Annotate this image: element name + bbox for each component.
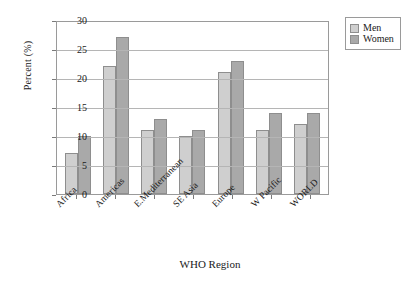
y-tick-label: 5 <box>59 161 87 171</box>
legend-label-women: Women <box>363 34 394 44</box>
legend-label-men: Men <box>363 23 381 33</box>
gridline <box>57 50 328 51</box>
legend-item-women: Women <box>350 34 394 44</box>
y-tick-mark <box>52 21 56 22</box>
x-tick-mark <box>271 195 272 199</box>
x-tick-mark <box>193 195 194 199</box>
legend-swatch-men <box>350 24 359 33</box>
bar-women-europe <box>231 61 244 194</box>
y-tick-label: 25 <box>59 45 87 55</box>
x-tick-mark <box>310 195 311 199</box>
bar-men-americas <box>103 66 116 194</box>
y-axis-title: Percent (%) <box>22 11 33 121</box>
y-tick-mark <box>52 195 56 196</box>
y-tick-label: 15 <box>59 103 87 113</box>
y-tick-mark <box>52 137 56 138</box>
gridline <box>57 137 328 138</box>
y-tick-mark <box>52 79 56 80</box>
legend: Men Women <box>345 17 401 50</box>
bar-men-europe <box>218 72 231 194</box>
y-tick-label: 30 <box>59 16 87 26</box>
legend-item-men: Men <box>350 23 394 33</box>
x-tick-mark <box>154 195 155 199</box>
legend-swatch-women <box>350 35 359 44</box>
y-tick-mark <box>52 166 56 167</box>
gridline <box>57 166 328 167</box>
plot-area <box>56 21 329 195</box>
x-tick-mark <box>115 195 116 199</box>
gridline <box>57 108 328 109</box>
x-tick-mark <box>232 195 233 199</box>
y-tick-label: 20 <box>59 74 87 84</box>
y-tick-mark <box>52 108 56 109</box>
bar-women-americas <box>116 37 129 194</box>
x-axis-title: WHO Region <box>0 258 420 270</box>
y-tick-label: 10 <box>59 132 87 142</box>
gridline <box>57 79 328 80</box>
x-tick-mark <box>76 195 77 199</box>
y-tick-mark <box>52 50 56 51</box>
bar-chart: Percent (%) 051015202530 AfricaAmericasE… <box>0 0 420 290</box>
